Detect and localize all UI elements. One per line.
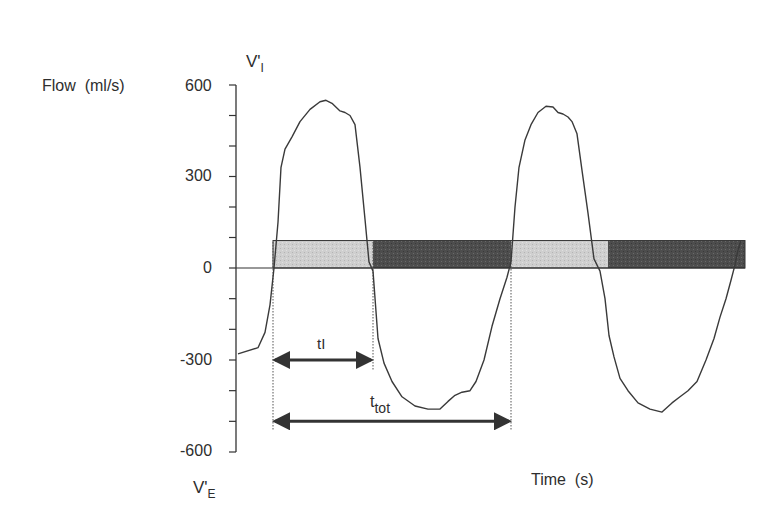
x-axis-title: Time (s) <box>531 471 594 489</box>
ve-label: V'E <box>193 478 216 498</box>
ve-sub: E <box>208 487 216 501</box>
vi-main: V' <box>246 52 261 71</box>
ti-label: tI <box>317 335 325 352</box>
time-guides <box>273 242 511 430</box>
phase-segment-expiration <box>373 241 511 268</box>
ttot-label: ttot <box>370 393 390 411</box>
ve-main: V' <box>193 478 208 497</box>
ttot-sub: tot <box>374 400 390 416</box>
y-tick-minus300: -300 <box>180 351 212 369</box>
y-tick-600: 600 <box>185 77 212 95</box>
phase-bar <box>273 241 745 268</box>
phase-segment-inspiration <box>273 241 373 268</box>
y-tick-minus600: -600 <box>180 442 212 460</box>
time-arrows <box>275 360 509 421</box>
y-tick-300: 300 <box>185 167 212 185</box>
vi-sub: I <box>261 61 264 75</box>
y-tick-0: 0 <box>203 259 212 277</box>
phase-segment-expiration <box>608 241 745 268</box>
y-axis-title: Flow (ml/s) <box>42 77 125 95</box>
y-axis <box>229 85 236 452</box>
vi-label: V'I <box>246 52 264 72</box>
